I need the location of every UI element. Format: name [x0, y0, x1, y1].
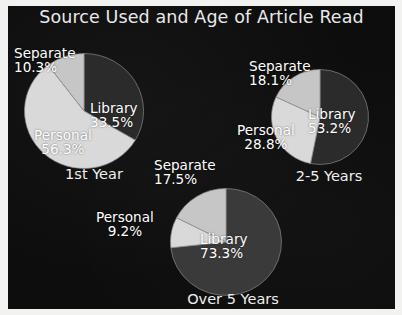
slice-label-separate-first-year: Separate 10.3%: [14, 46, 76, 75]
chart-title: Source Used and Age of Article Read: [8, 7, 395, 27]
slice-label-value: 28.8%: [237, 137, 295, 151]
slice-label-value: 18.1%: [249, 73, 311, 87]
slice-label-value: 56.3%: [34, 142, 92, 156]
slice-label-library-over-five-years: Library 73.3%: [200, 232, 248, 261]
pie-caption-two-to-five-years: 2-5 Years: [254, 168, 395, 184]
slice-label-value: 10.3%: [14, 60, 76, 74]
slice-label-personal-over-five-years: Personal 9.2%: [96, 210, 154, 239]
slice-label-personal-first-year: Personal 56.3%: [34, 128, 92, 157]
slice-label-value: 73.3%: [200, 246, 248, 260]
slice-label-value: 53.2%: [308, 121, 356, 135]
slice-label-separate-over-five-years: Separate 17.5%: [154, 158, 216, 187]
pie-caption-first-year: 1st Year: [14, 166, 174, 182]
slice-label-value: 9.2%: [96, 224, 154, 238]
slice-label-library-two-to-five-years: Library 53.2%: [308, 107, 356, 136]
slice-label-value: 33.5%: [90, 115, 138, 129]
slice-label-value: 17.5%: [154, 172, 216, 186]
chart-frame: Source Used and Age of Article Read 1st …: [0, 0, 402, 315]
slice-label-library-first-year: Library 33.5%: [90, 101, 138, 130]
slice-label-separate-two-to-five-years: Separate 18.1%: [249, 59, 311, 88]
slice-label-personal-two-to-five-years: Personal 28.8%: [237, 123, 295, 152]
chart-plot-area: Source Used and Age of Article Read 1st …: [8, 6, 395, 309]
pie-caption-over-five-years: Over 5 Years: [153, 291, 313, 307]
